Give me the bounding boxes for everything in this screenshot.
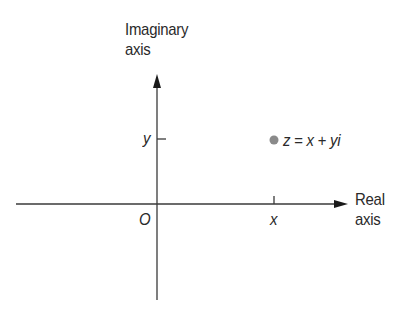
real-axis-label-line2: axis [355, 210, 381, 229]
point-label: z = x + yi [283, 131, 340, 150]
imaginary-axis-arrow-icon [153, 74, 161, 88]
y-tick-label: y [143, 129, 150, 148]
point-z [270, 136, 279, 145]
imaginary-axis-label-line2: axis [125, 40, 151, 59]
complex-plane-diagram [0, 0, 402, 314]
x-tick-label: x [270, 210, 277, 229]
imaginary-axis-label-line1: Imaginary [125, 20, 188, 39]
real-axis-arrow-icon [334, 200, 348, 208]
real-axis-label-line1: Real [355, 190, 385, 209]
origin-label: O [139, 210, 150, 229]
